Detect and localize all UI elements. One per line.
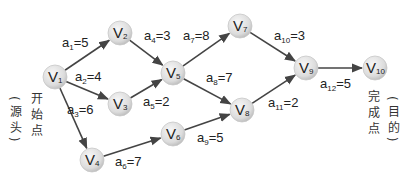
edge-label-a11: a11=2 xyxy=(268,95,298,112)
node-v9: V9 xyxy=(294,56,318,80)
edge-label-a2: a2=4 xyxy=(75,69,102,86)
edge-v2-v5 xyxy=(130,40,163,65)
edge-label-a6: a6=7 xyxy=(115,154,142,171)
end-label: 完成点 xyxy=(366,90,378,138)
node-v3: V3 xyxy=(108,92,132,116)
start-label: 开始点 xyxy=(29,92,41,140)
end-paren-label: (目的) xyxy=(386,96,398,145)
edge-label-a4: a4=3 xyxy=(144,28,171,45)
edge-label-a1: a1=5 xyxy=(62,35,89,52)
start-paren-label: (源头) xyxy=(8,96,20,145)
node-v5: V5 xyxy=(161,61,185,85)
edge-label-a7: a7=8 xyxy=(183,28,210,45)
aoe-network-diagram: a1=5a2=4a3=6a4=3a5=2a6=7a7=8a8=7a9=5a10=… xyxy=(0,0,408,188)
node-v8: V8 xyxy=(230,98,254,122)
edge-label-a5: a5=2 xyxy=(143,94,170,111)
edge-v1-v3 xyxy=(66,82,108,99)
edge-label-a12: a12=5 xyxy=(320,76,351,93)
node-v2: V2 xyxy=(108,21,132,45)
node-v1: V1 xyxy=(43,65,67,89)
edge-label-a9: a9=5 xyxy=(197,130,224,147)
edge-label-a3: a3=6 xyxy=(67,102,94,119)
edge-label-a8: a8=7 xyxy=(206,70,233,87)
node-v6: V6 xyxy=(161,122,185,146)
node-v4: V4 xyxy=(80,148,104,172)
node-v10: V10 xyxy=(363,56,387,80)
node-v7: V7 xyxy=(228,14,252,38)
edge-label-a10: a10=3 xyxy=(274,28,305,45)
edge-v6-v8 xyxy=(184,114,229,130)
